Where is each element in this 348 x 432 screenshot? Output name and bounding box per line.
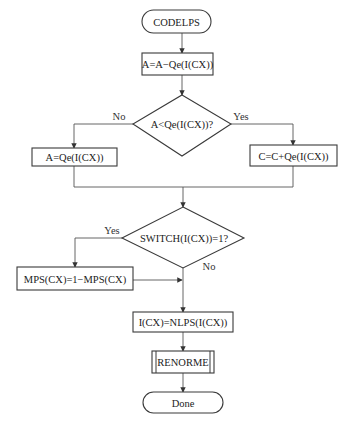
decision-a-lt-qe: A<Qe(I(CX))?	[133, 95, 231, 156]
decision2-no-label: No	[203, 261, 216, 272]
edge-decision1-no	[74, 124, 134, 148]
start-label: CODELPS	[153, 17, 200, 28]
process-c-plus-qe: C=C+Qe(I(CX))	[250, 145, 337, 166]
decision2-yes-label: Yes	[104, 225, 119, 236]
edge-decision2-yes	[75, 238, 123, 267]
edge-decision1-yes	[230, 124, 293, 145]
end-terminal: Done	[143, 392, 223, 413]
start-terminal: CODELPS	[142, 10, 211, 33]
process-mps-flip-label: MPS(CX)=1−MPS(CX)	[24, 274, 127, 286]
process-c-plus-qe-label: C=C+Qe(I(CX))	[258, 151, 329, 163]
decision-switch: SWITCH(I(CX))=1?	[122, 207, 244, 268]
predefined-process-renorme: RENORME	[152, 351, 214, 373]
process-nlps: I(CX)=NLPS(I(CX))	[133, 312, 233, 332]
end-label: Done	[172, 398, 195, 409]
edge-a-eq-qe-to-merge	[74, 166, 293, 187]
process-a-eq-qe-label: A=Qe(I(CX))	[46, 152, 104, 164]
flowchart-canvas: CODELPS A=A−Qe(I(CX)) A<Qe(I(CX))? No Ye…	[0, 0, 348, 432]
process-a-eq-qe: A=Qe(I(CX))	[32, 148, 117, 166]
process-a-minus-qe: A=A−Qe(I(CX))	[142, 53, 214, 75]
renorme-label: RENORME	[157, 357, 208, 368]
decision-a-lt-qe-label: A<Qe(I(CX))?	[151, 119, 214, 131]
process-nlps-label: I(CX)=NLPS(I(CX))	[139, 317, 228, 329]
process-a-minus-qe-label: A=A−Qe(I(CX))	[142, 59, 214, 71]
decision1-no-label: No	[113, 111, 126, 122]
decision1-yes-label: Yes	[233, 111, 248, 122]
decision-switch-label: SWITCH(I(CX))=1?	[140, 233, 228, 245]
process-mps-flip: MPS(CX)=1−MPS(CX)	[17, 267, 133, 290]
